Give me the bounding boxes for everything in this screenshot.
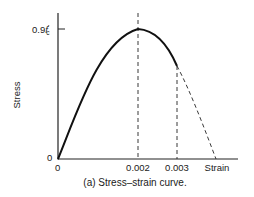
y-tick-label-peak: 0.9f′c xyxy=(32,23,50,36)
x-axis-label: Strain xyxy=(205,162,230,173)
y-origin-label: 0 xyxy=(47,152,52,163)
x-tick-label-0002: 0.002 xyxy=(126,162,150,173)
descending-branch-dashed xyxy=(177,66,216,159)
stress-strain-curve xyxy=(58,29,177,159)
stress-strain-diagram: 0.9f′c Stress 0 0 0.002 0.003 Strain (a)… xyxy=(0,0,254,197)
y-axis-label: Stress xyxy=(11,81,22,108)
x-origin-label: 0 xyxy=(55,162,60,173)
figure-caption: (a) Stress–strain curve. xyxy=(83,177,186,188)
x-tick-label-0003: 0.003 xyxy=(165,162,189,173)
